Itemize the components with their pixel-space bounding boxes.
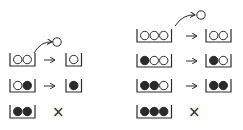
open-circle-icon <box>210 31 218 39</box>
ejected-circle-icon <box>53 38 61 46</box>
open-circle-icon <box>160 31 168 39</box>
filled-circle-icon <box>141 107 149 115</box>
filled-circle-icon <box>160 107 168 115</box>
open-circle-icon <box>160 81 168 89</box>
ejected-circle-icon <box>197 11 205 19</box>
open-circle-icon <box>219 31 227 39</box>
eject-arrow-icon <box>34 42 52 53</box>
open-circle-icon <box>150 31 158 39</box>
filled-circle-icon <box>150 107 158 115</box>
eject-arrow-icon <box>175 15 195 26</box>
reject-x-icon: × <box>188 103 201 121</box>
open-circle-icon <box>219 56 227 64</box>
open-circle-icon <box>14 81 22 89</box>
queue-diagram: ×× <box>0 0 243 130</box>
open-circle-icon <box>23 55 31 63</box>
open-circle-icon <box>14 55 22 63</box>
reject-x-icon: × <box>52 103 65 121</box>
filled-circle-icon <box>70 81 78 89</box>
open-circle-icon <box>160 56 168 64</box>
filled-circle-icon <box>141 56 149 64</box>
filled-circle-icon <box>23 107 31 115</box>
filled-circle-icon <box>210 56 218 64</box>
filled-circle-icon <box>141 81 149 89</box>
filled-circle-icon <box>23 81 31 89</box>
filled-circle-icon <box>210 81 218 89</box>
open-circle-icon <box>150 56 158 64</box>
filled-circle-icon <box>219 81 227 89</box>
open-circle-icon <box>141 31 149 39</box>
open-circle-icon <box>70 55 78 63</box>
filled-circle-icon <box>150 81 158 89</box>
filled-circle-icon <box>14 107 22 115</box>
